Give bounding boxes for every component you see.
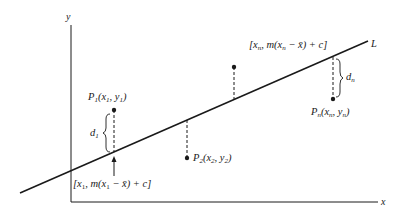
- deviation-label-d1: d1: [90, 127, 99, 140]
- point-label-p1: P1(x1, y1): [87, 91, 127, 104]
- line-point-label-last: [xn, m(xn − x̄) + c]: [249, 39, 327, 52]
- brace-d1: [103, 114, 110, 152]
- deviation-label-dn: dn: [346, 71, 355, 84]
- y-axis-label: y: [65, 11, 71, 22]
- regression-line-L: [20, 41, 368, 193]
- arrow-head-up-icon: [112, 156, 117, 162]
- brace-dn: [336, 59, 343, 97]
- line-label-L: L: [370, 38, 377, 49]
- data-point-p2: [185, 156, 189, 160]
- x-axis-label: x: [380, 196, 386, 207]
- point-label-p2: P2(x2, y2): [192, 152, 232, 165]
- data-point-p3: [232, 65, 236, 69]
- data-point-pn: [331, 97, 335, 101]
- data-point-p1: [112, 108, 116, 112]
- regression-diagram: y x L P1(x1, y1) d1 [x1, m(x1 − x̄) + c]…: [0, 0, 398, 214]
- point-label-pn: Pn(xn, yn): [310, 106, 350, 119]
- line-point-label-first: [x1, m(x1 − x̄) + c]: [73, 178, 151, 191]
